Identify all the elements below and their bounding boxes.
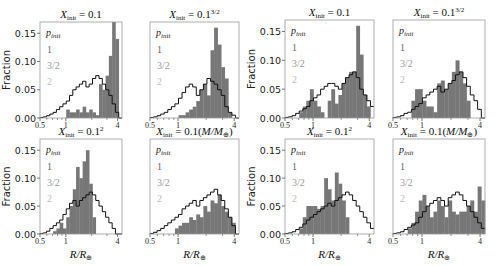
histogram-bar <box>186 223 190 234</box>
histogram-bar <box>53 231 57 234</box>
y-tick-label: 0.05 <box>260 201 281 212</box>
histogram-bar <box>437 200 441 234</box>
histogram-bar <box>189 217 193 234</box>
legend-entry: 3/2 <box>47 60 60 71</box>
histogram-bar <box>102 90 106 118</box>
histogram-bar <box>367 106 371 118</box>
histogram-bar <box>459 212 463 234</box>
histogram-bar <box>422 195 426 234</box>
legend-title: pinit <box>45 144 61 157</box>
histogram-bar <box>310 206 314 234</box>
histogram-panel-5: 0.000.050.100.15Fraction0.514Xinit = 0.1… <box>246 6 374 130</box>
panel-title: Xinit = 0.1(M/M⊕) <box>400 125 478 139</box>
histogram-bar <box>310 89 314 118</box>
legend: pinit13/22 <box>155 27 171 87</box>
histogram-bar <box>106 76 110 118</box>
histogram-bar <box>83 107 87 118</box>
y-tick-label: 0.15 <box>260 145 281 156</box>
histogram-bar <box>433 112 437 118</box>
histogram-bar <box>445 217 449 234</box>
y-tick-label: 0.10 <box>260 55 281 66</box>
histogram-bar <box>109 56 113 118</box>
histogram-bar <box>328 101 332 118</box>
legend: pinit13/22 <box>45 144 61 204</box>
legend-entry: 2 <box>47 193 52 204</box>
histogram-bar <box>207 212 211 234</box>
histogram-bar <box>422 101 426 118</box>
histogram-bar <box>463 83 467 118</box>
y-tick-label: 0.15 <box>15 28 36 39</box>
histogram-bar <box>456 60 460 118</box>
panel-title: Xinit = 0.1 <box>59 8 102 22</box>
x-tick-label: 0.5 <box>35 237 45 246</box>
histogram-bar <box>360 55 364 118</box>
panel-title: Xinit = 0.13/2 <box>168 8 220 22</box>
histogram-bar <box>299 228 303 234</box>
histogram-bar <box>335 173 339 234</box>
histogram-panel-6: 0.514Xinit = 0.13/2pinit13/22 <box>388 6 485 130</box>
histogram-bar <box>200 217 204 234</box>
y-axis-label: Fraction <box>1 50 12 90</box>
histogram-bar <box>317 106 321 118</box>
histogram-bar <box>193 220 197 234</box>
x-tick-label: 4 <box>478 237 482 246</box>
histogram-bar <box>207 95 211 118</box>
legend-entry: 2 <box>400 74 405 85</box>
histogram-bar <box>214 28 218 118</box>
histogram-bar <box>335 104 339 118</box>
x-tick-label: 1 <box>420 237 424 246</box>
x-tick-label: 1 <box>64 237 68 246</box>
y-tick-label: 0.00 <box>15 113 36 124</box>
figure: 0.000.050.100.15Fraction0.514Xinit = 0.1… <box>0 0 499 266</box>
legend-title: pinit <box>155 27 171 40</box>
histogram-bar <box>178 226 182 234</box>
y-axis-label: Fraction <box>246 167 257 207</box>
legend: pinit13/22 <box>290 25 306 85</box>
y-tick-label: 0.10 <box>15 173 36 184</box>
histogram-bar <box>60 223 64 234</box>
legend-entry: 1 <box>400 161 405 172</box>
x-tick-label: 4 <box>367 237 371 246</box>
legend-title: pinit <box>398 144 414 157</box>
histogram-bar <box>459 72 463 118</box>
histogram-bar <box>89 184 93 234</box>
histogram-bar <box>70 112 74 118</box>
legend-title: pinit <box>290 144 306 157</box>
histogram-panel-3: 0.000.050.100.15Fraction0.514Xinit = 0.1… <box>1 125 122 262</box>
histogram-bar <box>441 81 445 118</box>
x-tick-label: 0.5 <box>280 237 290 246</box>
histogram-bar <box>186 112 190 118</box>
legend-entry: 2 <box>292 193 297 204</box>
legend-entry: 3/2 <box>400 58 413 69</box>
histogram-bar <box>426 106 430 118</box>
histogram-bar <box>221 67 225 118</box>
x-axis-label: R/R⊕ <box>69 248 93 262</box>
legend-entry: 3/2 <box>400 177 413 188</box>
x-tick-label: 4 <box>116 237 120 246</box>
histogram-bar <box>346 78 350 118</box>
histogram-bar <box>218 45 222 118</box>
legend-entry: 2 <box>157 193 162 204</box>
x-tick-label: 4 <box>232 121 236 130</box>
histogram-bar <box>203 84 207 118</box>
y-tick-label: 0.10 <box>15 56 36 67</box>
y-tick-label: 0.05 <box>260 84 281 95</box>
histogram-bar <box>452 212 456 234</box>
histogram-bar <box>349 72 353 118</box>
legend-entry: 1 <box>292 42 297 53</box>
legend: pinit13/22 <box>398 144 414 204</box>
histogram-bar <box>92 112 96 118</box>
legend-entry: 2 <box>400 193 405 204</box>
legend-entry: 1 <box>47 161 52 172</box>
histogram-bar <box>92 217 96 234</box>
histogram-bar <box>66 110 70 118</box>
histogram-bar <box>321 206 325 234</box>
legend-entry: 2 <box>157 76 162 87</box>
histogram-bar <box>196 101 200 118</box>
histogram-bar <box>73 112 77 118</box>
histogram-bar <box>328 189 332 234</box>
histogram-bar <box>189 110 193 118</box>
legend-entry: 1 <box>157 161 162 172</box>
histogram-bar <box>182 223 186 234</box>
x-tick-label: 1 <box>311 237 315 246</box>
